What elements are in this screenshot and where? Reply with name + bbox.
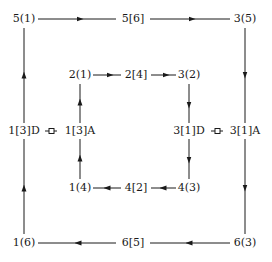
node-outer-bottom-right: 6(3) bbox=[233, 237, 258, 249]
node-inner-bottom-right: 4(3) bbox=[177, 182, 202, 194]
node-outer-middle-right: 3[1]A bbox=[229, 125, 262, 137]
node-inner-bottom-left: 1(4) bbox=[68, 182, 93, 194]
node-inner-top-right: 3(2) bbox=[177, 69, 202, 81]
node-outer-top-middle: 5[6] bbox=[121, 13, 146, 25]
square-connector-icon bbox=[45, 129, 57, 134]
node-outer-bottom-middle: 6[5] bbox=[121, 237, 146, 249]
node-outer-top-right: 3(5) bbox=[233, 13, 258, 25]
node-inner-middle-left: 1[3]A bbox=[64, 125, 97, 137]
node-inner-top-middle: 2[4] bbox=[124, 69, 149, 81]
node-outer-middle-left: 1[3]D bbox=[7, 125, 40, 137]
node-inner-top-left: 2(1) bbox=[68, 69, 93, 81]
node-inner-middle-right: 3[1]D bbox=[172, 125, 205, 137]
square-connector-icon bbox=[211, 129, 223, 134]
node-inner-bottom-middle: 4[2] bbox=[124, 182, 149, 194]
node-outer-bottom-left: 1(6) bbox=[12, 237, 37, 249]
node-outer-top-left: 5(1) bbox=[12, 13, 37, 25]
